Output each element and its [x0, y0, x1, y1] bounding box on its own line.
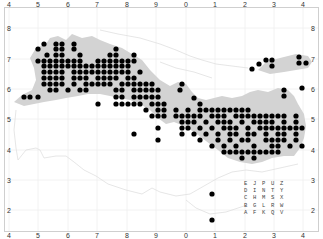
occurrence-dot [21, 94, 26, 99]
occurrence-dot [227, 107, 232, 112]
occurrence-dot [83, 75, 88, 80]
occurrence-dot [155, 107, 160, 112]
axis-tick-label: 7 [95, 1, 99, 8]
occurrence-dot [155, 87, 160, 92]
occurrence-dot [125, 75, 130, 80]
occurrence-dot [53, 46, 58, 51]
axis-tick-label: 0 [184, 1, 188, 8]
occurrence-dot [269, 125, 274, 130]
occurrence-dot [77, 75, 82, 80]
occurrence-dot [119, 101, 124, 106]
occurrence-dot [221, 125, 226, 130]
occurrence-dot [71, 63, 76, 68]
occurrence-dot [101, 81, 106, 86]
occurrence-dot [71, 41, 76, 46]
occurrence-dot [125, 58, 130, 63]
occurrence-dot [299, 125, 304, 130]
occurrence-dot [257, 149, 262, 154]
occurrence-dot [119, 63, 124, 68]
occurrence-dot [53, 63, 58, 68]
legend-row: C H M S X [244, 194, 274, 201]
occurrence-dot [209, 107, 214, 112]
occurrence-dot [251, 119, 256, 124]
occurrence-dot [287, 143, 292, 148]
axis-tick-label: 6 [7, 86, 11, 93]
occurrence-dot [119, 69, 124, 74]
occurrence-dot [41, 81, 46, 86]
occurrence-dot [95, 63, 100, 68]
occurrence-dot [113, 46, 118, 51]
occurrence-dot [95, 81, 100, 86]
axis-tick-label: 6 [66, 1, 70, 8]
axis-tick-label: 8 [125, 232, 129, 239]
occurrence-dot [131, 81, 136, 86]
axis-tick-label: 6 [66, 232, 70, 239]
occurrence-dot [131, 101, 136, 106]
occurrence-dot [77, 58, 82, 63]
occurrence-dot [137, 87, 142, 92]
occurrence-dot [125, 63, 130, 68]
axis-tick-label: 8 [311, 25, 315, 32]
occurrence-dot [47, 87, 52, 92]
occurrence-dot [269, 143, 274, 148]
occurrence-dot [77, 63, 82, 68]
axis-tick-label: 2 [243, 1, 247, 8]
axis-tick-label: 0 [184, 232, 188, 239]
occurrence-dot [221, 107, 226, 112]
occurrence-dot [203, 107, 208, 112]
axis-tick-label: 5 [36, 232, 40, 239]
occurrence-dot [197, 125, 202, 130]
occurrence-dot [293, 137, 298, 142]
occurrence-dot [299, 143, 304, 148]
occurrence-dot [287, 125, 292, 130]
occurrence-dot [281, 93, 286, 98]
occurrence-dot [245, 113, 250, 118]
occurrence-dot [179, 125, 184, 130]
occurrence-dot [179, 113, 184, 118]
occurrence-dot [269, 137, 274, 142]
occurrence-dot [131, 87, 136, 92]
occurrence-dot [215, 119, 220, 124]
occurrence-dot [245, 131, 250, 136]
occurrence-dot [137, 94, 142, 99]
occurrence-dot [221, 143, 226, 148]
occurrence-dot [89, 81, 94, 86]
occurrence-dot [239, 113, 244, 118]
occurrence-dot [53, 41, 58, 46]
occurrence-dot [143, 94, 148, 99]
occurrence-dot [59, 52, 64, 57]
occurrence-dot [89, 69, 94, 74]
occurrence-dot [281, 87, 286, 92]
axis-tick-label: 4 [7, 147, 11, 154]
occurrence-dot [59, 69, 64, 74]
occurrence-dot [95, 101, 100, 106]
axis-tick-label: 6 [311, 86, 315, 93]
occurrence-dot [197, 101, 202, 106]
occurrence-dot [59, 46, 64, 51]
axis-tick-label: 9 [154, 1, 158, 8]
occurrence-dot [179, 131, 184, 136]
occurrence-dot [113, 58, 118, 63]
occurrence-dot [245, 125, 250, 130]
occurrence-dot [131, 75, 136, 80]
occurrence-dot [233, 113, 238, 118]
occurrence-dot [137, 69, 142, 74]
axis-tick-label: 8 [7, 25, 11, 32]
occurrence-dot [239, 119, 244, 124]
axis-tick-label: 2 [7, 207, 11, 214]
letter-grid-legend: E J P U Z D I N T Y C H M S X B G L R W … [244, 180, 274, 216]
occurrence-dot [179, 81, 184, 86]
occurrence-dot [77, 52, 82, 57]
occurrence-dot [77, 87, 82, 92]
occurrence-dot [125, 69, 130, 74]
occurrence-dot [275, 131, 280, 136]
occurrence-dot [233, 125, 238, 130]
occurrence-dot [65, 63, 70, 68]
occurrence-dot [233, 149, 238, 154]
axis-tick-label: 5 [311, 116, 315, 123]
occurrence-dot [125, 81, 130, 86]
occurrence-dot [113, 87, 118, 92]
occurrence-dot [131, 94, 136, 99]
occurrence-dot [215, 113, 220, 118]
occurrence-dot [293, 131, 298, 136]
